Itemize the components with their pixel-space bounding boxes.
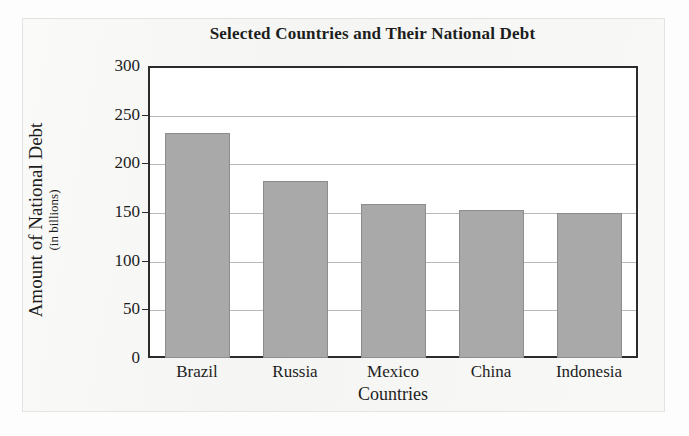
bar-mexico bbox=[361, 204, 426, 358]
y-axis-title-units: (in billions) bbox=[46, 70, 61, 370]
x-axis-title: Countries bbox=[148, 384, 638, 405]
y-tick-label: 250 bbox=[96, 105, 140, 125]
bar-china bbox=[459, 210, 524, 358]
y-tick-label: 100 bbox=[96, 251, 140, 271]
y-tick-label: 300 bbox=[96, 56, 140, 76]
y-tick-label: 0 bbox=[96, 348, 140, 368]
bars-layer bbox=[148, 66, 638, 358]
bar-brazil bbox=[165, 133, 230, 358]
y-axis-title-main: Amount of National Debt bbox=[25, 70, 46, 370]
x-tick-label: Indonesia bbox=[529, 362, 649, 382]
y-axis-title: Amount of National Debt (in billions) bbox=[25, 70, 65, 370]
y-tick-label: 200 bbox=[96, 153, 140, 173]
chart-title: Selected Countries and Their National De… bbox=[100, 24, 645, 44]
y-tick-label: 50 bbox=[96, 299, 140, 319]
y-tick-label: 150 bbox=[96, 202, 140, 222]
scanned-chart-page: Selected Countries and Their National De… bbox=[0, 0, 689, 436]
bar-russia bbox=[263, 181, 328, 358]
bar-indonesia bbox=[557, 213, 622, 358]
